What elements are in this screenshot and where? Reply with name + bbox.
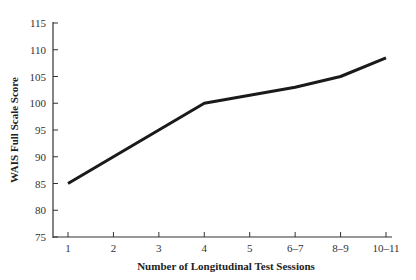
y-tick-label: 90 <box>35 151 47 163</box>
x-axis-title: Number of Longitudinal Test Sessions <box>137 260 315 272</box>
y-axis: 7580859095100105110115 <box>30 17 59 243</box>
x-tick-label: 8–9 <box>332 242 349 254</box>
y-tick-label: 75 <box>35 231 47 243</box>
x-tick-label: 6–7 <box>287 242 304 254</box>
x-tick-label: 1 <box>65 242 71 254</box>
y-tick-label: 95 <box>35 124 47 136</box>
y-tick-label: 80 <box>35 204 47 216</box>
data-series <box>68 58 386 184</box>
x-tick-label: 4 <box>202 242 208 254</box>
x-tick-label: 10–11 <box>372 242 399 254</box>
y-tick-label: 110 <box>30 44 47 56</box>
x-tick-label: 5 <box>247 242 253 254</box>
x-tick-label: 3 <box>156 242 162 254</box>
series-line <box>68 58 386 184</box>
x-tick-label: 2 <box>111 242 117 254</box>
x-axis: 123456–78–910–11 <box>53 232 400 254</box>
y-tick-label: 100 <box>30 97 47 109</box>
y-tick-label: 85 <box>35 178 47 190</box>
line-chart: 7580859095100105110115 123456–78–910–11 … <box>0 0 416 280</box>
y-tick-label: 105 <box>30 71 47 83</box>
y-tick-label: 115 <box>30 17 47 29</box>
y-axis-title: WAIS Full Scale Score <box>8 77 20 183</box>
